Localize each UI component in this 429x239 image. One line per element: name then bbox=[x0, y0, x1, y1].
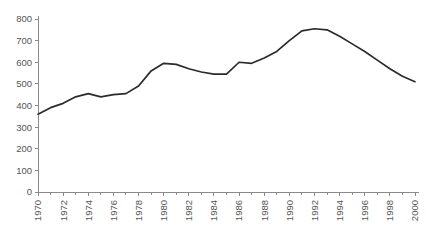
x-axis-tick-label: 1974 bbox=[83, 200, 94, 221]
x-axis-tick-label: 1998 bbox=[384, 200, 395, 221]
x-axis-tick-label: 1986 bbox=[233, 200, 244, 221]
x-axis-tick-label: 1978 bbox=[133, 200, 144, 221]
y-axis-tick-label: 100 bbox=[16, 165, 32, 176]
x-axis-tick-label: 1994 bbox=[334, 200, 345, 221]
x-axis-tick-label: 2000 bbox=[409, 200, 420, 221]
line-chart: 0100200300400500600700800 19701972197419… bbox=[0, 0, 429, 239]
chart-canvas: 0100200300400500600700800 19701972197419… bbox=[0, 0, 429, 239]
x-axis-tick-label: 1980 bbox=[158, 200, 169, 221]
x-axis-tick-label: 1972 bbox=[58, 200, 69, 221]
y-axis-tick-label: 800 bbox=[16, 13, 32, 24]
x-axis-tick-label: 1984 bbox=[208, 200, 219, 221]
x-axis-tick-label: 1990 bbox=[284, 200, 295, 221]
x-axis-tick-label: 1970 bbox=[32, 200, 43, 221]
x-axis-tick-label: 1982 bbox=[183, 200, 194, 221]
x-axis-tick-label: 1976 bbox=[108, 200, 119, 221]
x-axis-tick-label: 1992 bbox=[309, 200, 320, 221]
y-axis-tick-label: 200 bbox=[16, 143, 32, 154]
y-axis-tick-label: 600 bbox=[16, 57, 32, 68]
x-axis-tick-label: 1996 bbox=[359, 200, 370, 221]
y-axis-tick-label: 700 bbox=[16, 35, 32, 46]
y-axis-tick-label: 400 bbox=[16, 100, 32, 111]
x-axis-tick-label: 1988 bbox=[259, 200, 270, 221]
y-axis-tick-label: 0 bbox=[27, 186, 32, 197]
y-axis-tick-label: 300 bbox=[16, 122, 32, 133]
y-axis-tick-label: 500 bbox=[16, 78, 32, 89]
